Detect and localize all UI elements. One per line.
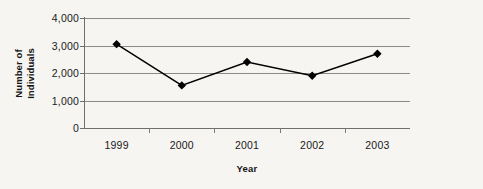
x-axis-tick-label: 2000 (170, 139, 194, 151)
y-axis-tick-label: 0 (36, 122, 84, 134)
data-point-marker (373, 50, 381, 58)
x-axis-tick-label: 1999 (105, 139, 129, 151)
x-axis-tick-mark (345, 128, 346, 133)
x-axis-tick-label: 2002 (300, 139, 324, 151)
x-axis-title: Year (84, 163, 410, 174)
x-axis-tick-label: 2003 (365, 139, 389, 151)
y-axis-title-line2: Individuals (24, 48, 35, 99)
y-axis-tick-label: 2,000 (36, 67, 84, 79)
chart-screenshot: Number of Individuals 4,0003,0002,0001,0… (0, 0, 483, 189)
x-axis-tick-mark (280, 128, 281, 133)
y-axis-tick-mark (80, 128, 85, 129)
data-point-marker (178, 81, 186, 89)
y-axis-tick-label: 4,000 (36, 12, 84, 24)
x-axis-tick-label: 2001 (235, 139, 259, 151)
y-axis-tick-label: 3,000 (36, 40, 84, 52)
x-axis-tick-mark (214, 128, 215, 133)
y-axis-title-line1: Number of (13, 49, 24, 97)
y-axis-tick-labels: 4,0003,0002,0001,0000 (36, 0, 84, 189)
data-point-marker (243, 58, 251, 66)
data-point-marker (308, 72, 316, 80)
data-series-line (84, 18, 410, 128)
plot-area (84, 18, 410, 128)
x-axis-tick-labels: 19992000200120022003 (84, 139, 410, 155)
x-axis-tick-mark (149, 128, 150, 133)
y-axis-tick-label: 1,000 (36, 95, 84, 107)
data-point-marker (112, 40, 120, 48)
gridline (84, 128, 410, 129)
